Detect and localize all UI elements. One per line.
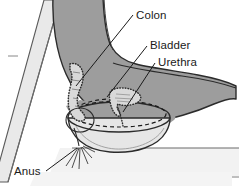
label-urethra: Urethra [158, 56, 198, 68]
anatomical-figure: Colon Bladder Urethra Anus [0, 0, 239, 190]
seat-plane [30, 172, 232, 186]
anatomy-illustration: Colon Bladder Urethra Anus [0, 0, 239, 190]
label-bladder: Bladder [150, 39, 190, 51]
label-colon: Colon [136, 9, 167, 21]
label-anus: Anus [14, 165, 41, 177]
